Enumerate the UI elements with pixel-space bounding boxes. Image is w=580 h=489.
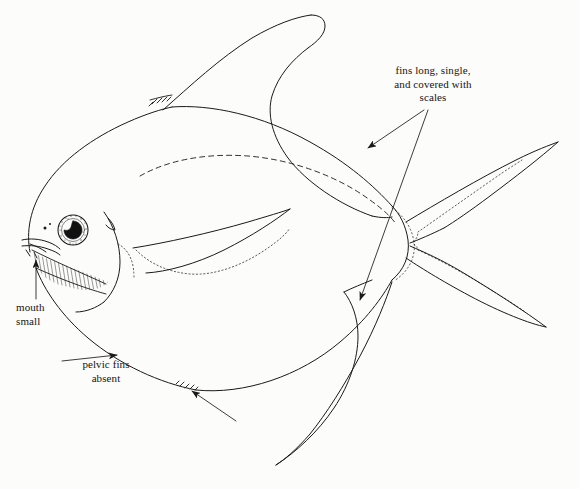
dorsal-fin: [163, 15, 392, 218]
caudal-fin: [406, 142, 558, 327]
dorsal-spinelets: [149, 95, 172, 106]
gill-membrane-edge: [32, 250, 106, 294]
label-mouth-small: mouth small: [16, 301, 80, 328]
gill-cover: [76, 212, 120, 312]
pectoral-fin: [118, 209, 290, 278]
opercular-hatching: [34, 252, 109, 291]
lateral-line: [140, 155, 396, 224]
leader-to-ventral-spines: [192, 391, 236, 421]
pupil: [64, 221, 82, 239]
label-pelvic-fins-absent: pelvic fins absent: [58, 358, 154, 385]
ventral-spinelets: [176, 381, 198, 390]
leader-to-anal-fin: [360, 110, 428, 300]
nostril: [44, 223, 52, 230]
fish-anatomy-figure: fins long, single, and covered with scal…: [0, 0, 580, 489]
body-outline: [29, 107, 392, 391]
fish-line-drawing: [0, 0, 580, 489]
label-fins-long-single-scales: fins long, single, and covered with scal…: [376, 64, 490, 105]
mouth: [22, 239, 60, 258]
leader-to-dorsal-fin: [368, 110, 424, 148]
caudal-peduncle: [392, 206, 414, 281]
anal-fin: [276, 280, 392, 465]
